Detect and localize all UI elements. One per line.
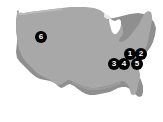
- marker-6[interactable]: 6: [35, 31, 47, 43]
- marker-4[interactable]: 4: [118, 58, 130, 70]
- marker-5[interactable]: 5: [131, 58, 143, 70]
- map-figure: 6 1 2 3 4 5: [0, 0, 163, 122]
